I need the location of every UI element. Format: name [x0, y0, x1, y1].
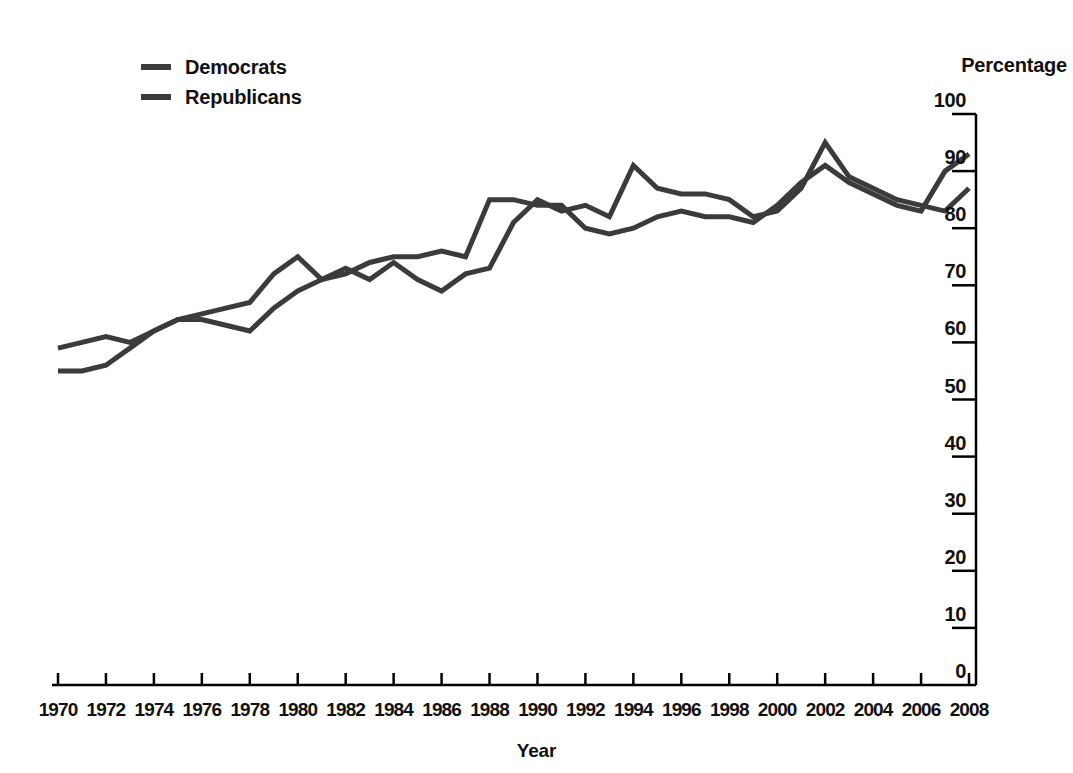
x-axis-title: Year	[0, 740, 1073, 762]
x-tick-label: 1980	[278, 700, 317, 719]
x-tick-label: 1990	[518, 700, 557, 719]
chart-figure: Democrats Republicans Percentage 0102030…	[0, 0, 1073, 773]
x-tick-label: 1986	[422, 700, 461, 719]
x-tick-label: 1974	[135, 700, 174, 719]
y-tick-label: 30	[890, 490, 966, 510]
x-tick-label: 1996	[662, 700, 701, 719]
y-tick-label: 80	[890, 204, 966, 224]
x-tick-label: 1972	[87, 700, 126, 719]
y-tick-label: 60	[890, 318, 966, 338]
y-tick-label: 90	[890, 147, 966, 167]
y-tick-label: 100	[890, 90, 966, 110]
x-tick-label: 2006	[902, 700, 941, 719]
x-tick-label: 1994	[614, 700, 653, 719]
x-tick-label: 1982	[326, 700, 365, 719]
x-tick-label: 1998	[710, 700, 749, 719]
x-tick-label: 1992	[566, 700, 605, 719]
x-axis-tick-labels: 1970197219741976197819801982198419861988…	[0, 700, 1073, 726]
y-axis-tick-labels: 0102030405060708090100	[0, 0, 1073, 773]
x-tick-label: 1976	[182, 700, 221, 719]
y-tick-label: 40	[890, 433, 966, 453]
y-tick-label: 0	[890, 661, 966, 681]
y-tick-label: 20	[890, 547, 966, 567]
x-tick-label: 1984	[374, 700, 413, 719]
x-tick-label: 2008	[950, 700, 989, 719]
y-tick-label: 50	[890, 376, 966, 396]
x-tick-label: 2002	[806, 700, 845, 719]
y-tick-label: 10	[890, 604, 966, 624]
x-tick-label: 2000	[758, 700, 797, 719]
y-tick-label: 70	[890, 261, 966, 281]
x-tick-label: 2004	[854, 700, 893, 719]
x-tick-label: 1988	[470, 700, 509, 719]
x-tick-label: 1978	[230, 700, 269, 719]
x-tick-label: 1970	[39, 700, 78, 719]
